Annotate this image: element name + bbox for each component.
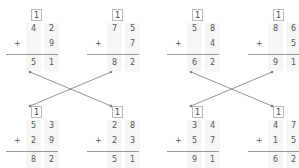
addend-tens: 4 bbox=[26, 24, 41, 33]
addition-problem: 1 5 3 + 2 9 8 2 bbox=[6, 106, 56, 168]
addend-tens: 3 bbox=[187, 121, 202, 130]
sum-ones: 2 bbox=[44, 155, 59, 164]
addition-problem: 1 2 8 + 2 3 5 1 bbox=[87, 106, 137, 168]
plus-sign: + bbox=[14, 39, 21, 48]
addend2-tens: 2 bbox=[26, 136, 41, 145]
plus-sign: + bbox=[175, 136, 182, 145]
sum-rule bbox=[87, 54, 139, 55]
carry-box: 1 bbox=[31, 106, 42, 118]
addend-tens: 2 bbox=[107, 121, 122, 130]
addition-problem: 1 4 2 + 9 5 1 bbox=[6, 9, 56, 71]
sum-tens: 9 bbox=[187, 155, 202, 164]
addend-tens: 8 bbox=[268, 24, 283, 33]
addend-ones: 3 bbox=[44, 121, 59, 130]
sum-tens: 6 bbox=[187, 58, 202, 67]
addend2-ones: 4 bbox=[205, 39, 220, 48]
sum-ones: 2 bbox=[286, 155, 299, 164]
sum-ones: 1 bbox=[286, 58, 299, 67]
addend-ones: 2 bbox=[44, 24, 59, 33]
addend2-tens: 2 bbox=[107, 136, 122, 145]
addend2-ones: 9 bbox=[44, 39, 59, 48]
addend2-ones: 5 bbox=[286, 39, 299, 48]
carry-box: 1 bbox=[112, 9, 123, 21]
addend-ones: 7 bbox=[286, 121, 299, 130]
addend2-tens: 5 bbox=[187, 136, 202, 145]
carry-box: 1 bbox=[31, 9, 42, 21]
sum-tens: 8 bbox=[26, 155, 41, 164]
sum-ones: 1 bbox=[125, 155, 140, 164]
sum-tens: 9 bbox=[268, 58, 283, 67]
addend2-ones: 7 bbox=[125, 39, 140, 48]
addend-ones: 8 bbox=[205, 24, 220, 33]
sum-ones: 1 bbox=[44, 58, 59, 67]
sum-rule bbox=[248, 54, 299, 55]
carry-box: 1 bbox=[112, 106, 123, 118]
sum-tens: 5 bbox=[107, 155, 122, 164]
sum-rule bbox=[248, 151, 299, 152]
plus-sign: + bbox=[95, 136, 102, 145]
plus-sign: + bbox=[256, 39, 263, 48]
addition-problem: 1 3 4 + 5 7 9 1 bbox=[167, 106, 217, 168]
sum-ones: 2 bbox=[205, 58, 220, 67]
addend2-tens: 1 bbox=[268, 136, 283, 145]
addend-tens: 4 bbox=[268, 121, 283, 130]
carry-box: 1 bbox=[192, 106, 203, 118]
sum-rule bbox=[167, 54, 219, 55]
sum-tens: 6 bbox=[268, 155, 283, 164]
plus-sign: + bbox=[14, 136, 21, 145]
addition-problem: 1 5 8 + 4 6 2 bbox=[167, 9, 217, 71]
sum-rule bbox=[6, 151, 58, 152]
sum-ones: 1 bbox=[205, 155, 220, 164]
addend2-ones: 5 bbox=[286, 136, 299, 145]
addend-ones: 4 bbox=[205, 121, 220, 130]
sum-ones: 2 bbox=[125, 58, 140, 67]
sum-tens: 5 bbox=[26, 58, 41, 67]
carry-box: 1 bbox=[273, 106, 284, 118]
addition-problem: 1 7 5 + 7 8 2 bbox=[87, 9, 137, 71]
addend2-ones: 3 bbox=[125, 136, 140, 145]
addend-ones: 5 bbox=[125, 24, 140, 33]
addend-tens: 5 bbox=[26, 121, 41, 130]
plus-sign: + bbox=[95, 39, 102, 48]
carry-box: 1 bbox=[192, 9, 203, 21]
plus-sign: + bbox=[175, 39, 182, 48]
addend-ones: 8 bbox=[125, 121, 140, 130]
plus-sign: + bbox=[256, 136, 263, 145]
addend-ones: 6 bbox=[286, 24, 299, 33]
addition-problem: 1 4 7 + 1 5 6 2 bbox=[248, 106, 298, 168]
addend2-ones: 9 bbox=[44, 136, 59, 145]
sum-rule bbox=[87, 151, 139, 152]
carry-box: 1 bbox=[273, 9, 284, 21]
sum-rule bbox=[167, 151, 219, 152]
sum-tens: 8 bbox=[107, 58, 122, 67]
sum-rule bbox=[6, 54, 58, 55]
addition-problem: 1 8 6 + 5 9 1 bbox=[248, 9, 298, 71]
addend2-ones: 7 bbox=[205, 136, 220, 145]
addend-tens: 7 bbox=[107, 24, 122, 33]
addend-tens: 5 bbox=[187, 24, 202, 33]
